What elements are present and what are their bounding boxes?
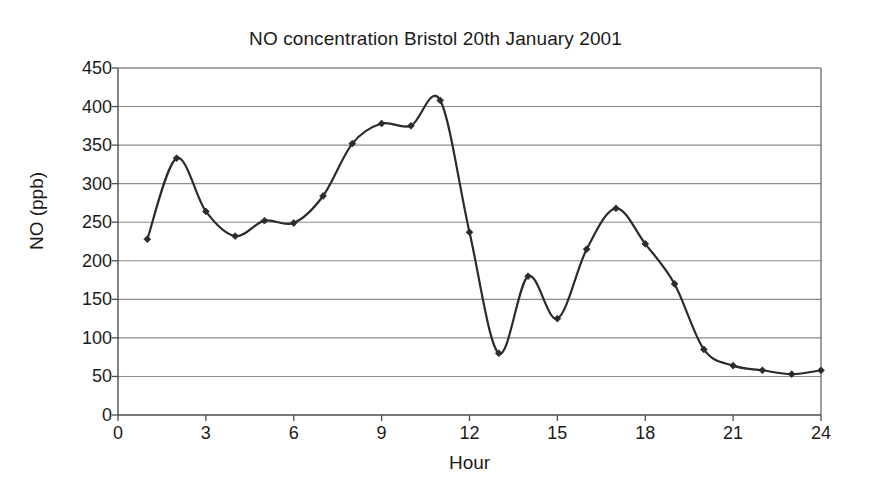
chart-figure: NO concentration Bristol 20th January 20… xyxy=(0,0,871,489)
data-series-line xyxy=(147,96,821,374)
data-point-markers xyxy=(144,97,825,378)
gridlines xyxy=(118,68,821,376)
data-point-marker xyxy=(261,217,268,224)
data-point-marker xyxy=(759,367,766,374)
data-point-marker xyxy=(730,362,737,369)
data-point-marker xyxy=(378,120,385,127)
plot-area xyxy=(0,0,871,489)
data-point-marker xyxy=(613,205,620,212)
data-point-marker xyxy=(144,236,151,243)
data-point-marker xyxy=(818,367,825,374)
data-point-marker xyxy=(290,220,297,227)
axis-ticks xyxy=(112,68,821,421)
series-line xyxy=(147,96,821,374)
data-point-marker xyxy=(466,229,473,236)
data-point-marker xyxy=(232,233,239,240)
axes xyxy=(118,68,821,415)
